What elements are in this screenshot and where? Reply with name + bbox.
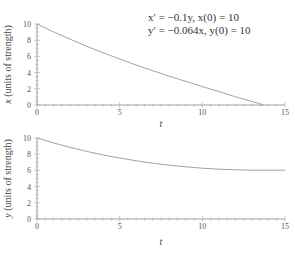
y-tick-label: 10 [23,134,31,143]
x-tick-label: 5 [118,222,122,231]
equation-x: x′ = −0.1y, x(0) = 10 [148,11,239,24]
x-tick-label: 5 [118,108,122,117]
equations-annotation: x′ = −0.1y, x(0) = 10 y′ = −0.064x, y(0)… [148,11,251,37]
y-tick-label: 10 [23,20,31,29]
series-line-yt [37,138,285,170]
y-tick-label: 0 [27,101,31,110]
equation-y: y′ = −0.064x, y(0) = 10 [148,24,251,37]
y-tick-label: 8 [27,36,31,45]
y-tick-label: 6 [27,52,31,61]
y-tick-label: 2 [27,199,31,208]
x-plot: 0246810051015tx (units of strength) [2,20,289,129]
x-tick-label: 15 [281,222,289,231]
y-plot: 0246810051015ty (units of strength) [2,134,289,247]
y-axis-label: x (units of strength) [2,25,14,105]
x-tick-label: 10 [198,108,206,117]
y-tick-label: 0 [27,215,31,224]
x-tick-label: 10 [198,222,206,231]
chart-canvas: x′ = −0.1y, x(0) = 10 y′ = −0.064x, y(0)… [0,0,295,257]
series-line-xt [37,24,264,105]
y-tick-label: 2 [27,85,31,94]
y-tick-label: 4 [27,183,31,192]
y-tick-label: 8 [27,150,31,159]
x-tick-label: 0 [35,222,39,231]
x-tick-label: 15 [281,108,289,117]
y-tick-label: 6 [27,166,31,175]
x-axis-label: t [160,118,163,129]
y-axis-label: y (units of strength) [2,139,14,219]
y-tick-label: 4 [27,69,31,78]
x-axis-label: t [160,236,163,247]
x-tick-label: 0 [35,108,39,117]
